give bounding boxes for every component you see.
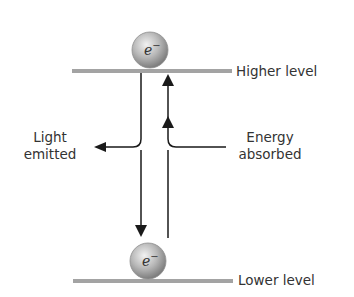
down-arrowhead-icon xyxy=(135,225,147,237)
absorption-arrow xyxy=(168,84,226,238)
energy-absorbed-line2: absorbed xyxy=(228,146,312,163)
up-arrowhead-icon xyxy=(162,74,174,86)
energy-absorbed-line1: Energy xyxy=(228,129,312,146)
electron-higher: e− xyxy=(132,32,168,68)
lower-level-line xyxy=(73,279,233,283)
lower-level-label: Lower level xyxy=(238,272,315,289)
energy-absorbed-label: Energy absorbed xyxy=(228,129,312,163)
emission-arrow xyxy=(104,73,141,226)
electron-lower: e− xyxy=(130,243,166,279)
energy-absorbed-arrowhead-icon xyxy=(162,116,174,128)
higher-level-label: Higher level xyxy=(236,63,317,80)
higher-level-line xyxy=(72,69,232,73)
light-emitted-line1: Light xyxy=(14,129,86,146)
light-emitted-arrowhead-icon xyxy=(94,142,106,152)
light-emitted-label: Light emitted xyxy=(14,129,86,163)
light-emitted-line2: emitted xyxy=(14,146,86,163)
